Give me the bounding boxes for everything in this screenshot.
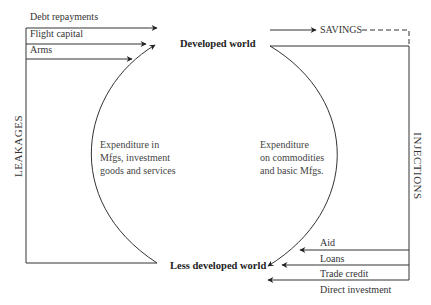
right-arc-label: Expenditure on commodities and basic Mfg… [260,138,324,177]
leakage-arms: Arms [30,44,52,56]
leakage-debt-repayments: Debt repayments [30,11,98,23]
injections-label: INJECTIONS [412,126,424,206]
node-less-developed-world: Less developed world [170,260,266,272]
left-arc-label: Expenditure in Mfgs, investment goods an… [100,138,176,177]
injection-aid: Aid [320,237,335,249]
savings-label: SAVINGS [320,24,362,36]
leakages-label: LEAKAGES [12,106,24,186]
injection-direct-investment: Direct investment [320,284,391,296]
injection-trade-credit: Trade credit [320,268,368,280]
leakage-flight-capital: Flight capital [30,28,83,40]
injection-loans: Loans [320,253,344,265]
node-developed-world: Developed world [180,38,256,50]
